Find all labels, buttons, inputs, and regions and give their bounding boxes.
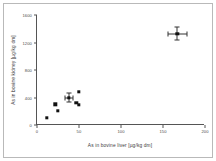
error-bar-cap-x bbox=[64, 95, 65, 100]
y-tick-label-800: 800 bbox=[25, 68, 32, 73]
data-point bbox=[77, 90, 80, 93]
y-tick-label-1600: 1600 bbox=[22, 13, 32, 18]
x-tick-label-100: 100 bbox=[117, 129, 124, 134]
x-tick-label-200: 200 bbox=[201, 129, 208, 134]
y-axis-label-wrapper: As in bovine kidney [µg/kg dm] bbox=[8, 15, 18, 125]
x-tick-label-150: 150 bbox=[159, 129, 166, 134]
data-point bbox=[56, 109, 59, 112]
x-tick-label-50: 50 bbox=[77, 129, 82, 134]
data-point bbox=[176, 32, 179, 35]
y-axis-label: As in bovine kidney [µg/kg dm] bbox=[11, 35, 16, 105]
x-tick-label-0: 0 bbox=[36, 129, 38, 134]
figure: 050100150200 040080012001600 As in bovin… bbox=[0, 0, 216, 161]
error-bar-cap-x bbox=[73, 95, 74, 100]
y-tick-label-1200: 1200 bbox=[22, 40, 32, 45]
y-tick-1600 bbox=[34, 15, 37, 16]
x-tick-50 bbox=[79, 125, 80, 128]
error-bar-cap-x bbox=[186, 31, 187, 36]
y-tick-0 bbox=[34, 125, 37, 126]
y-tick-1200 bbox=[34, 42, 37, 43]
error-bar-cap-x bbox=[168, 31, 169, 36]
x-tick-150 bbox=[163, 125, 164, 128]
x-tick-100 bbox=[121, 125, 122, 128]
data-point bbox=[54, 103, 57, 106]
y-tick-label-0: 0 bbox=[30, 123, 32, 128]
error-bar-cap-y bbox=[66, 102, 71, 103]
plot-area: 050100150200 040080012001600 bbox=[36, 15, 204, 125]
y-tick-800 bbox=[34, 70, 37, 71]
error-bar-cap-y bbox=[175, 39, 180, 40]
x-axis-label: As in bovine liver [µg/kg dm] bbox=[36, 143, 204, 148]
data-point bbox=[77, 103, 80, 106]
error-bar-cap-y bbox=[175, 27, 180, 28]
y-tick-400 bbox=[34, 97, 37, 98]
data-point bbox=[45, 116, 48, 119]
y-tick-label-400: 400 bbox=[25, 95, 32, 100]
error-bar-cap-y bbox=[66, 92, 71, 93]
x-tick-200 bbox=[205, 125, 206, 128]
data-point bbox=[67, 96, 70, 99]
